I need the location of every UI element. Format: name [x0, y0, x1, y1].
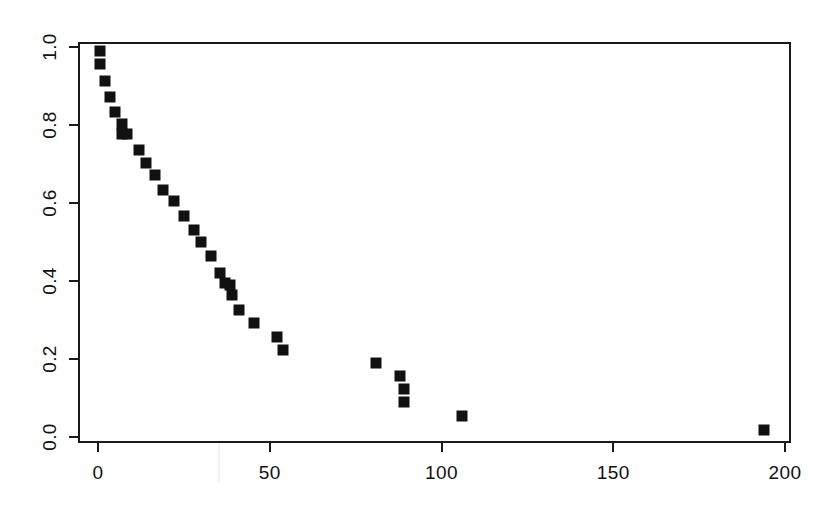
y-axis-tick — [69, 436, 78, 438]
y-axis-tick — [69, 124, 78, 126]
y-axis-tick — [69, 280, 78, 282]
y-axis-tick — [69, 358, 78, 360]
x-axis-tick — [441, 443, 443, 452]
x-axis-tick — [97, 443, 99, 452]
y-axis-tick — [69, 46, 78, 48]
y-axis-tick-label: 1.0 — [39, 33, 61, 61]
scatter-plot-figure: 0501001502000.00.20.40.60.81.0 — [0, 0, 838, 516]
y-axis-tick — [69, 202, 78, 204]
x-axis-tick-label: 150 — [597, 462, 630, 484]
plot-frame — [78, 42, 791, 443]
x-axis-tick-label: 50 — [259, 462, 281, 484]
x-axis-tick — [784, 443, 786, 452]
y-axis-tick-label: 0.8 — [39, 111, 61, 139]
x-axis-tick-label: 0 — [93, 462, 104, 484]
x-axis-tick-label: 200 — [769, 462, 802, 484]
y-axis-tick-label: 0.4 — [39, 267, 61, 295]
y-axis-tick-label: 0.0 — [39, 423, 61, 451]
x-axis-tick-label: 100 — [425, 462, 458, 484]
x-axis-tick — [269, 443, 271, 452]
x-axis-tick — [612, 443, 614, 452]
y-axis-tick-label: 0.2 — [39, 345, 61, 373]
y-axis-tick-label: 0.6 — [39, 189, 61, 217]
